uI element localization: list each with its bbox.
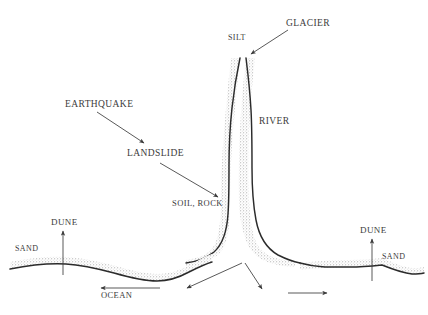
- label-sand-right: SAND: [382, 253, 405, 261]
- diagram-canvas: [0, 0, 428, 315]
- delta-arrow-right: [245, 263, 262, 289]
- label-silt: SILT: [228, 34, 246, 42]
- glacier-arrow: [251, 30, 288, 54]
- geological-diagram: GLACIER SILT RIVER EARTHQUAKE LANDSLIDE …: [0, 0, 428, 315]
- label-earthquake: EARTHQUAKE: [65, 100, 133, 110]
- river-valley-sediment: [186, 58, 295, 267]
- label-ocean: OCEAN: [101, 291, 132, 300]
- label-landslide: LANDSLIDE: [127, 149, 184, 159]
- label-glacier: GLACIER: [286, 19, 330, 29]
- label-dune-left: DUNE: [51, 218, 78, 227]
- label-soil-rock: SOIL, ROCK: [172, 199, 223, 208]
- beach-sand-band: [10, 254, 424, 281]
- label-dune-right: DUNE: [360, 226, 387, 235]
- label-sand-left: SAND: [15, 245, 38, 253]
- landslide-arrow: [160, 163, 218, 197]
- earthquake-arrow: [97, 112, 144, 143]
- label-river: RIVER: [259, 117, 290, 127]
